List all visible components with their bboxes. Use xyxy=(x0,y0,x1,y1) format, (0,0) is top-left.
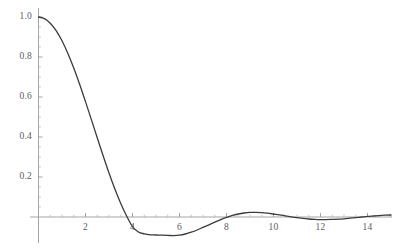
x-axis-major-ticks xyxy=(86,213,368,217)
y-axis-tick-label: 1.0 xyxy=(8,11,32,21)
y-axis-tick-label: 0.8 xyxy=(8,51,32,61)
plot-area xyxy=(0,0,407,249)
x-axis-tick-label: 4 xyxy=(122,222,144,232)
y-axis-tick-label: 0.2 xyxy=(8,171,32,181)
x-axis-tick-label: 14 xyxy=(357,222,379,232)
x-axis-tick-label: 6 xyxy=(169,222,191,232)
data-series-line xyxy=(39,17,392,236)
axes-group xyxy=(30,8,392,243)
x-axis-tick-label: 2 xyxy=(75,222,97,232)
y-axis-tick-label: 0.4 xyxy=(8,131,32,141)
chart-container: 0.20.40.60.81.0 2468101214 xyxy=(0,0,407,249)
x-axis-tick-label: 8 xyxy=(216,222,238,232)
x-axis-tick-label: 12 xyxy=(310,222,332,232)
y-axis-major-ticks xyxy=(39,17,43,177)
y-axis-tick-label: 0.6 xyxy=(8,91,32,101)
x-axis-tick-label: 10 xyxy=(263,222,285,232)
